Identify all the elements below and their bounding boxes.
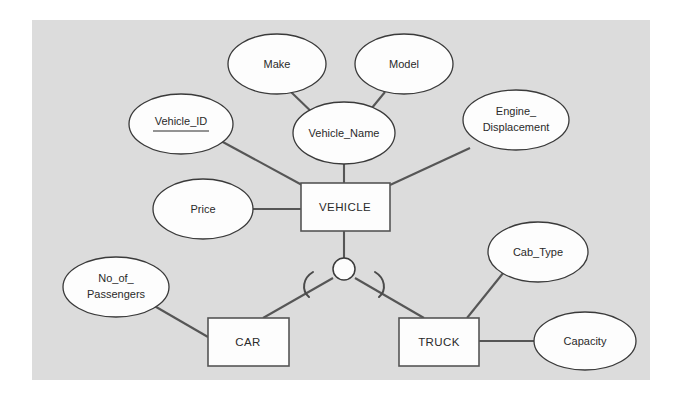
entity-node-car[interactable]: CAR <box>208 318 289 366</box>
er-diagram-svg: Make Model Vehicle_ID Vehicle_Name Engin… <box>0 0 678 404</box>
specialization-node[interactable] <box>333 258 355 280</box>
attribute-label-no-of-passengers-line2: Passengers <box>87 288 146 300</box>
attribute-node-model[interactable]: Model <box>355 34 453 94</box>
er-diagram-canvas: Make Model Vehicle_ID Vehicle_Name Engin… <box>0 0 678 404</box>
attribute-label-capacity: Capacity <box>564 335 607 347</box>
entity-node-vehicle[interactable]: VEHICLE <box>301 183 390 231</box>
attribute-node-price[interactable]: Price <box>153 179 253 239</box>
attribute-node-vehicle-name[interactable]: Vehicle_Name <box>293 102 395 164</box>
edge-engine-displacement-vehicle <box>390 148 470 185</box>
entity-label-truck: TRUCK <box>418 336 460 348</box>
edge-specialization-car <box>263 278 333 318</box>
attribute-label-engine-displacement-line2: Displacement <box>483 121 550 133</box>
entity-label-vehicle: VEHICLE <box>319 201 371 213</box>
attribute-node-engine-displacement[interactable]: Engine_ Displacement <box>463 90 569 150</box>
attribute-node-make[interactable]: Make <box>228 34 326 94</box>
attribute-label-vehicle-name: Vehicle_Name <box>309 127 380 139</box>
edge-specialization-truck <box>355 278 424 318</box>
attribute-label-engine-displacement-line1: Engine_ <box>496 105 537 117</box>
entity-node-truck[interactable]: TRUCK <box>399 318 479 366</box>
attribute-label-no-of-passengers-line1: No_of_ <box>98 272 134 284</box>
attribute-label-cab-type: Cab_Type <box>513 246 563 258</box>
entity-label-car: CAR <box>235 336 260 348</box>
subset-arc-car-icon <box>304 272 313 297</box>
edge-vehicle-id-vehicle <box>221 141 302 185</box>
attribute-node-cab-type[interactable]: Cab_Type <box>488 222 588 282</box>
attribute-label-make: Make <box>264 58 291 70</box>
attribute-node-vehicle-id[interactable]: Vehicle_ID <box>129 94 233 154</box>
edge-cab-type-truck <box>467 267 508 318</box>
attribute-node-no-of-passengers[interactable]: No_of_ Passengers <box>63 257 169 317</box>
attribute-label-vehicle-id: Vehicle_ID <box>155 115 208 127</box>
attribute-label-price: Price <box>190 203 215 215</box>
attribute-label-model: Model <box>389 58 419 70</box>
specialization-circle[interactable] <box>333 258 355 280</box>
edge-no-of-passengers-car <box>151 304 208 337</box>
attribute-node-capacity[interactable]: Capacity <box>534 312 636 370</box>
